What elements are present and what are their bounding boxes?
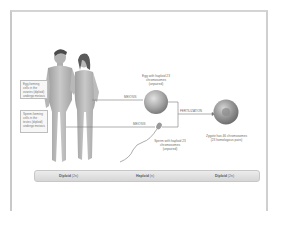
zygote-icon [214,100,239,125]
sperm-label: Sperm with haploid 23 chromosomes (unpai… [154,139,186,151]
fertilization-arrow [162,102,215,127]
egg-forming-cells-label: Egg-forming cells in the ovaries (diploi… [20,80,48,99]
zygote-label: Zygote has 46 chromosomes (23 homologous… [204,134,249,142]
egg-icon [144,90,168,114]
sperm-forming-cells-label: Sperm-forming cells in the testes (diplo… [20,110,48,133]
male-figure-icon [44,49,78,162]
egg-label: Egg with haploid 23 chromosomes (unpaire… [140,74,172,86]
stage-haploid: Haploid (n) [136,174,154,178]
ploidy-bar: Diploid (2n) Haploid (n) Diploid (2n) [34,170,260,182]
female-figure-icon [75,54,99,160]
meiosis-bottom-label: MEIOSIS [133,122,146,126]
fertilization-label: FERTILIZATION [180,109,202,113]
stage-diploid-left: Diploid (2n) [59,174,78,178]
stage-diploid-right: Diploid (2n) [215,174,234,178]
meiosis-top-label: MEIOSIS [124,95,137,99]
